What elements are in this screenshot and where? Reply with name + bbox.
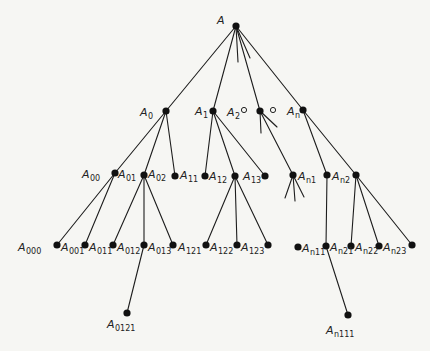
tree-edge xyxy=(115,111,166,173)
tree-node-a000 xyxy=(53,241,60,248)
node-label-a013: A013 xyxy=(147,241,171,256)
node-label-an23: An23 xyxy=(382,241,406,256)
open-node-marker xyxy=(270,107,275,112)
tree-edge xyxy=(213,26,236,111)
tree-edge xyxy=(285,175,293,198)
tree-edge xyxy=(236,26,260,111)
node-label-a: A xyxy=(216,14,225,27)
tree-edge xyxy=(356,175,379,246)
node-label-a11: A11 xyxy=(179,169,198,184)
tree-edge xyxy=(260,111,293,175)
node-label-an1: An1 xyxy=(297,170,316,185)
tree-edge xyxy=(303,110,356,175)
node-label-a2: A2 xyxy=(226,106,240,121)
tree-edge xyxy=(213,111,235,176)
node-label-a0121: A0121 xyxy=(106,318,135,333)
tree-edge xyxy=(235,176,268,245)
tree-edge xyxy=(113,175,144,245)
tree-node-an11 xyxy=(294,243,301,250)
node-label-an2: An2 xyxy=(331,170,350,185)
node-label-a00: A00 xyxy=(81,168,100,183)
tree-edge xyxy=(85,173,115,245)
tree-edge xyxy=(236,26,303,110)
node-label-a001: A001 xyxy=(60,241,84,256)
node-label-a011: A011 xyxy=(88,241,112,256)
tree-node-a xyxy=(232,22,239,29)
tree-node-a2 xyxy=(256,107,263,114)
tree-edge xyxy=(356,175,412,245)
node-label-a123: A123 xyxy=(240,241,264,256)
node-label-a0: A0 xyxy=(139,106,153,121)
node-label-a012: A012 xyxy=(116,241,140,256)
tree-diagram-canvas: AA0A1A2AnA00A01A02A11A12A13An1An2A000A00… xyxy=(0,0,430,351)
tree-edge xyxy=(206,176,235,245)
tree-node-a14 xyxy=(261,172,268,179)
node-label-a1: A1 xyxy=(194,105,208,120)
labels-layer: AA0A1A2AnA00A01A02A11A12A13An1An2A000A00… xyxy=(17,14,406,339)
tree-edge xyxy=(57,173,115,245)
nodes-layer xyxy=(53,22,415,318)
node-label-an: An xyxy=(286,105,300,120)
tree-edge xyxy=(205,111,213,176)
node-label-a121: A121 xyxy=(177,241,201,256)
node-label-an111: An111 xyxy=(325,324,354,339)
tree-edge xyxy=(326,246,348,315)
tree-node-a0 xyxy=(162,107,169,114)
node-label-an22: An22 xyxy=(354,241,378,256)
tree-node-a12 xyxy=(201,172,208,179)
tree-node-a0121 xyxy=(123,309,130,316)
open-node-marker xyxy=(241,107,246,112)
node-label-a02: A02 xyxy=(147,168,166,183)
tree-edge xyxy=(166,26,236,111)
tree-diagram: AA0A1A2AnA00A01A02A11A12A13An1An2A000A00… xyxy=(0,0,430,351)
tree-node-an2a xyxy=(323,171,330,178)
tree-edge xyxy=(235,176,237,245)
node-label-a12: A12 xyxy=(208,170,227,185)
tree-node-an1 xyxy=(289,171,296,178)
tree-edge xyxy=(351,175,356,246)
edges-layer xyxy=(57,26,412,315)
node-label-a000: A000 xyxy=(17,241,41,256)
node-label-a122: A122 xyxy=(209,241,233,256)
tree-edge xyxy=(144,175,173,245)
tree-node-a122 xyxy=(233,241,240,248)
tree-node-an111 xyxy=(344,311,351,318)
tree-node-a123 xyxy=(264,241,271,248)
tree-node-a121 xyxy=(202,241,209,248)
tree-node-an2 xyxy=(352,171,359,178)
node-label-a13: A13 xyxy=(242,170,261,185)
tree-node-an xyxy=(299,106,306,113)
tree-node-a13 xyxy=(231,172,238,179)
tree-edge xyxy=(326,175,327,246)
node-label-a01: A01 xyxy=(117,168,136,183)
tree-node-a012 xyxy=(140,241,147,248)
tree-edge xyxy=(166,111,175,176)
tree-node-a1 xyxy=(209,107,216,114)
tree-edge xyxy=(303,110,327,175)
tree-node-a11 xyxy=(171,172,178,179)
tree-node-a02 xyxy=(140,171,147,178)
tree-node-an24 xyxy=(408,241,415,248)
node-label-an11: An11 xyxy=(301,242,325,257)
tree-edge xyxy=(236,26,250,58)
